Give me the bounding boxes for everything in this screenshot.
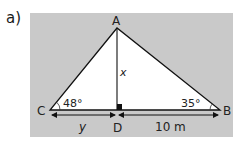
cd-length-label: y <box>78 120 87 134</box>
right-angle-mark <box>117 104 122 110</box>
angle-c-label: 48° <box>63 97 83 110</box>
vertex-d-label: D <box>113 121 122 135</box>
vertex-c-label: C <box>37 104 45 118</box>
angle-b-label: 35° <box>181 97 201 110</box>
db-length-label: 10 m <box>155 120 186 134</box>
height-label: x <box>119 66 127 79</box>
vertex-a-label: A <box>112 14 121 28</box>
triangle-diagram: A C B D 48° 35° x y 10 m <box>0 0 239 142</box>
vertex-b-label: B <box>223 104 231 118</box>
